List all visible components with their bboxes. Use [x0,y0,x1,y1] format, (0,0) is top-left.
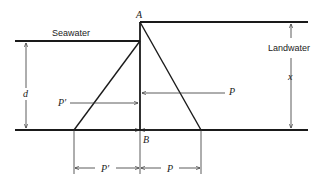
pressure-land-label: P [228,86,235,97]
pressure-diagram: d x Seawater Landwater A B P′ P P′ P [0,0,324,186]
x-label: x [287,71,293,82]
seawater-label: Seawater [52,28,90,38]
dim-land-label: P [166,163,173,174]
point-b-label: B [143,134,149,145]
landwater-pressure-slope [140,22,201,130]
point-a-label: A [135,9,143,20]
pressure-sea-label: P′ [57,97,67,108]
seawater-pressure-slope [74,41,140,130]
d-label: d [23,88,29,99]
dim-sea-label: P′ [100,163,110,174]
landwater-label: Landwater [268,43,310,53]
